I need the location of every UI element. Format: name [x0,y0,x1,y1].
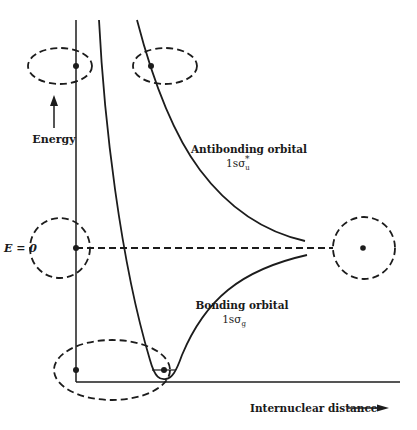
arrow-right-icon [377,405,389,412]
nucleus-dot [73,245,79,251]
bonding-symbol: 1sσg [222,313,246,328]
bonding-label: Bonding orbital [196,299,289,311]
nucleus-dot [360,245,366,251]
mo-energy-diagram: Energy E = 0 Antibonding orbital 1sσu* B… [0,0,417,430]
antibonding-orbital-shape [133,48,197,84]
antibonding-symbol: 1sσu* [226,154,250,172]
nucleus-dot [73,367,79,373]
united-atom-orbital-shape [28,48,92,84]
nucleus-dot [148,63,154,69]
arrow-up-icon [50,95,58,106]
zero-energy-label: E = 0 [3,242,37,255]
bonding-orbital-curve [99,20,307,379]
antibonding-orbital-curve [137,20,305,241]
energy-axis-label: Energy [32,133,76,146]
nucleus-dot [73,63,79,69]
